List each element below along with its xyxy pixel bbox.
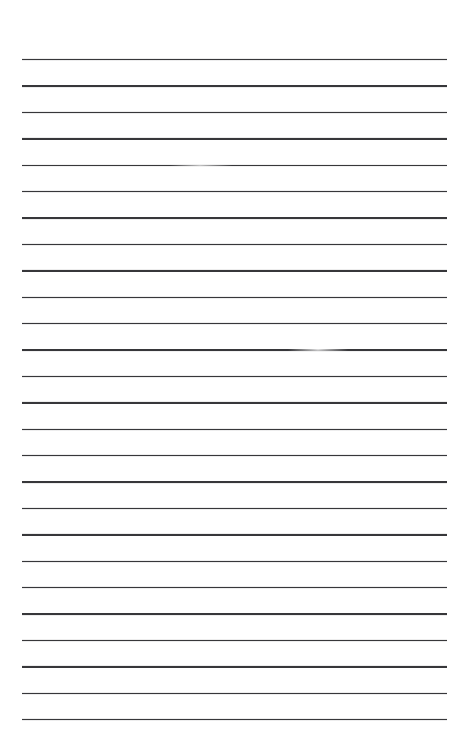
rule-line-stroke xyxy=(22,508,447,509)
rule-line-stroke xyxy=(22,561,447,562)
rule-line-stroke xyxy=(22,719,447,720)
rule-line-stroke xyxy=(22,138,447,139)
rule-line-stroke xyxy=(22,59,447,60)
rule-line-stroke xyxy=(22,191,447,192)
ruled-paper-sheet xyxy=(0,0,462,756)
rule-line-stroke xyxy=(22,640,447,641)
rule-line-stroke xyxy=(22,666,447,667)
rule-line-stroke xyxy=(22,112,447,113)
rule-line-stroke xyxy=(22,587,447,588)
rule-line-stroke xyxy=(22,429,447,430)
rule-line-stroke xyxy=(22,244,447,245)
rule-line-stroke xyxy=(22,297,447,298)
rule-line-stroke xyxy=(22,349,447,350)
rule-line-stroke xyxy=(22,402,447,403)
rule-line-stroke xyxy=(22,455,447,456)
rule-line-stroke xyxy=(22,165,447,166)
rule-line-stroke xyxy=(22,85,447,86)
rule-line-stroke xyxy=(22,217,447,218)
rule-line-stroke xyxy=(22,270,447,271)
rule-line-stroke xyxy=(22,376,447,377)
rule-line-stroke xyxy=(22,693,447,694)
rule-line-stroke xyxy=(22,481,447,482)
rule-line-stroke xyxy=(22,534,447,535)
rule-line-stroke xyxy=(22,323,447,324)
rule-line-stroke xyxy=(22,613,447,614)
